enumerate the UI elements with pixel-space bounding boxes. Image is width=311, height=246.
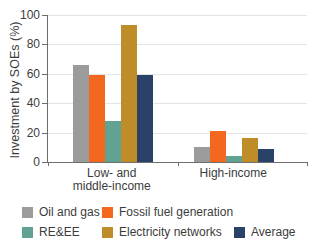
legend-swatch-icon: [102, 207, 113, 218]
y-tick-label-60: 60: [0, 67, 40, 81]
y-tick-label-40: 40: [0, 96, 40, 110]
bar-fossil-fuel-generation-1: [210, 131, 226, 162]
legend-swatch-icon: [22, 227, 33, 238]
y-tick-label-100: 100: [0, 8, 40, 22]
legend-row-1: RE&EEElectricity networksAverage: [0, 222, 311, 242]
bar-re-ee-1: [226, 156, 242, 162]
y-tick-label-80: 80: [0, 37, 40, 51]
x-category-label-1: High-income: [169, 167, 299, 193]
legend-item-fossil-fuel-generation: Fossil fuel generation: [102, 205, 233, 219]
legend-swatch-icon: [22, 207, 33, 218]
legend-item-oil-and-gas: Oil and gas: [22, 205, 100, 219]
legend-item-electricity-networks: Electricity networks: [102, 225, 222, 239]
legend-label: Fossil fuel generation: [119, 205, 233, 219]
bar-average-1: [258, 149, 274, 162]
bar-average-0: [137, 75, 153, 162]
legend-label: Average: [251, 225, 295, 239]
bar-groups: [48, 15, 307, 162]
legend: Oil and gasFossil fuel generationRE&EEEl…: [0, 202, 311, 242]
legend-label: RE&EE: [39, 225, 80, 239]
x-tick-mark-100: [307, 162, 308, 166]
x-category-label-0: Low- and middle-income: [47, 167, 177, 193]
legend-swatch-icon: [234, 227, 245, 238]
plot-area: [47, 15, 307, 163]
y-tick-label-0: 0: [0, 155, 40, 169]
bar-group-1: [170, 15, 300, 162]
bar-electricity-networks-1: [242, 138, 258, 162]
soe-investment-bar-chart: Investment by SOEs (%) 020406080100 Low-…: [0, 0, 311, 246]
bar-electricity-networks-0: [121, 25, 137, 162]
bar-re-ee-0: [105, 121, 121, 162]
legend-label: Electricity networks: [119, 225, 222, 239]
legend-row-0: Oil and gasFossil fuel generation: [0, 202, 311, 222]
x-axis-category-labels: Low- and middle-incomeHigh-income: [47, 167, 306, 193]
legend-label: Oil and gas: [39, 205, 100, 219]
legend-item-re-ee: RE&EE: [22, 225, 80, 239]
bar-group-0: [48, 15, 178, 162]
x-tick-mark-50: [178, 162, 179, 166]
x-tick-mark-0: [48, 162, 49, 166]
y-tick-label-20: 20: [0, 126, 40, 140]
bar-oil-and-gas-1: [194, 147, 210, 162]
legend-item-average: Average: [234, 225, 295, 239]
legend-swatch-icon: [102, 227, 113, 238]
bar-oil-and-gas-0: [73, 65, 89, 162]
bar-fossil-fuel-generation-0: [89, 75, 105, 162]
